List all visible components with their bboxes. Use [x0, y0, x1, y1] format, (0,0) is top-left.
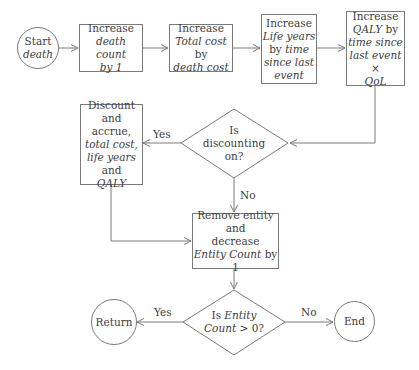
node-text: Is: [211, 309, 224, 321]
node-text-italic: by 1: [100, 61, 123, 73]
increase-qaly-node: Increase QALY by time since last event ×…: [346, 11, 405, 86]
start-death-label: death: [23, 48, 53, 60]
node-text-italic: since last: [264, 56, 314, 68]
node-text-italic: death count: [96, 35, 126, 60]
node-text: > 0?: [236, 322, 264, 334]
node-text-italic: Life years: [263, 30, 316, 42]
node-text: by: [382, 23, 398, 35]
node-text-italic: last event: [350, 49, 402, 61]
node-text-italic: event: [274, 69, 303, 81]
start-label: Start: [23, 35, 53, 48]
node-text-italic: time: [285, 43, 309, 55]
node-text-italic: Total cost: [175, 35, 227, 47]
node-text: and: [81, 164, 142, 177]
node-text: Discount and: [81, 99, 142, 125]
node-text-italic: Entity Count: [194, 248, 262, 260]
node-text-italic: Entity: [224, 309, 256, 321]
node-text-italic: QoL: [365, 75, 387, 87]
discount-yes-label: Yes: [153, 128, 171, 140]
node-text: Increase: [263, 17, 316, 30]
start-death-node: Start death: [17, 27, 59, 69]
node-text: Is: [203, 124, 265, 137]
node-text: by: [269, 43, 285, 55]
count-no-label: No: [301, 306, 317, 318]
is-entity-count-positive-decision: Is Entity Count > 0?: [198, 306, 270, 338]
return-label: Return: [96, 316, 133, 329]
increase-total-cost-node: Increase Total cost by death cost: [169, 24, 233, 72]
increase-life-years-node: Increase Life years by time since last e…: [261, 14, 317, 84]
end-node: End: [334, 301, 375, 342]
node-text: Remove entity and: [193, 209, 278, 235]
end-label: End: [344, 315, 365, 328]
return-node: Return: [91, 299, 137, 345]
node-text: Increase: [170, 22, 232, 35]
node-text-italic: life years: [87, 151, 136, 163]
node-text: Increase: [80, 22, 142, 35]
node-text-italic: Count: [204, 322, 236, 334]
node-text: on?: [203, 150, 265, 163]
count-yes-label: Yes: [154, 306, 172, 318]
node-text-italic: QALY: [97, 177, 126, 189]
node-text-italic: time since: [348, 36, 403, 48]
is-discounting-on-decision: Is discounting on?: [196, 118, 272, 168]
remove-entity-node: Remove entity and decrease Entity Count …: [192, 213, 279, 269]
node-text-italic: QALY: [353, 23, 382, 35]
node-text: by: [195, 48, 208, 60]
increase-death-count-node: Increase death count by 1: [79, 24, 143, 72]
discount-no-label: No: [240, 189, 256, 201]
node-text-italic: death cost: [173, 61, 228, 73]
node-text: Increase: [347, 10, 404, 23]
discount-and-accrue-node: Discount and accrue, total cost, life ye…: [80, 104, 143, 185]
node-text: decrease: [193, 235, 278, 248]
node-text: discounting: [203, 137, 265, 150]
node-text-italic: total cost,: [85, 138, 138, 150]
node-text: accrue,: [81, 125, 142, 138]
node-text: ×: [371, 62, 380, 74]
